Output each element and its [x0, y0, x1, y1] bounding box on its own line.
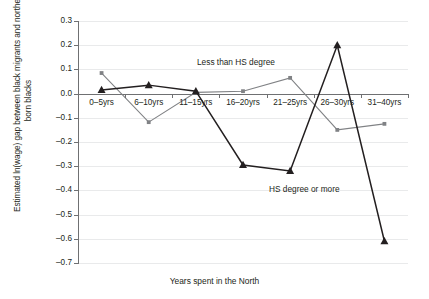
x-axis-tick-label: 26–30yrs — [320, 98, 354, 107]
x-axis-tick — [408, 94, 409, 98]
y-axis-tick — [74, 215, 79, 216]
y-axis-tick — [74, 239, 79, 240]
y-axis-tick — [74, 45, 79, 46]
x-axis-tick-label: 6–10yrs — [134, 98, 163, 107]
x-axis-tick-label: 31–40yrs — [368, 98, 402, 107]
y-axis-tick — [74, 69, 79, 70]
annotation-less-than-hs: Less than HS degree — [197, 57, 275, 67]
data-point-square — [147, 120, 151, 124]
data-point-square — [288, 76, 292, 80]
x-axis-title: Years spent in the North — [0, 276, 429, 286]
y-axis-tick — [74, 142, 79, 143]
y-axis-tick — [74, 21, 79, 22]
y-axis-tick — [74, 166, 79, 167]
y-axis-tick-label: 0.1 — [32, 64, 72, 73]
data-point-triangle — [145, 81, 153, 88]
x-axis-tick-label: 16–20yrs — [226, 98, 260, 107]
y-axis-tick-label: –0.2 — [32, 137, 72, 146]
y-axis-tick-label: 0.2 — [32, 40, 72, 49]
y-axis-tick-label: –0.7 — [32, 258, 72, 267]
x-axis-tick-label: 0–5yrs — [89, 98, 114, 107]
data-point-square — [335, 128, 339, 132]
y-axis-tick-label: –0.5 — [32, 210, 72, 219]
y-axis-tick-label: –0.3 — [32, 161, 72, 170]
y-axis-tick — [74, 118, 79, 119]
y-axis-tick-labels: 0.30.20.10.0–0.1–0.2–0.3–0.4–0.5–0.6–0.7 — [28, 21, 72, 263]
data-point-square — [383, 122, 387, 126]
y-axis-tick-label: –0.1 — [32, 113, 72, 122]
y-axis-tick-label: 0.0 — [32, 89, 72, 98]
annotation-hs-degree-or-more: HS degree or more — [269, 184, 340, 194]
data-point-triangle — [333, 41, 341, 48]
x-axis-tick-labels: 0–5yrs6–10yrs11–15yrs16–20yrs21–25yrs26–… — [78, 98, 408, 112]
data-point-square — [241, 89, 245, 93]
chart-container: Estimated ln(wage) gap between black mig… — [0, 0, 429, 299]
data-point-square — [100, 71, 104, 75]
series-hs-degree-or-more — [98, 41, 389, 244]
gridline — [78, 263, 408, 264]
x-axis-tick-label: 21–25yrs — [273, 98, 307, 107]
series-line — [102, 45, 385, 241]
y-axis-tick-label: –0.4 — [32, 185, 72, 194]
data-point-triangle — [380, 237, 388, 244]
y-axis-tick-label: 0.3 — [32, 16, 72, 25]
y-axis-tick-label: –0.6 — [32, 234, 72, 243]
y-axis-tick — [74, 263, 79, 264]
y-axis-tick — [74, 190, 79, 191]
x-axis-tick-label: 11–15yrs — [179, 98, 212, 107]
y-axis-tick — [74, 94, 79, 95]
